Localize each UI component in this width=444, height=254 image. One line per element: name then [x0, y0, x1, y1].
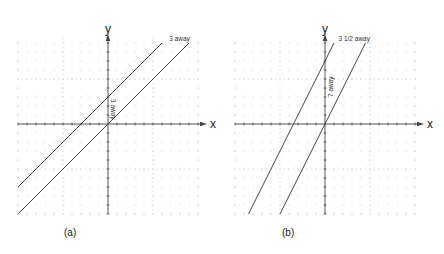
graph-line — [18, 43, 162, 187]
graph-line — [18, 43, 189, 214]
graph-line — [280, 43, 366, 214]
graph-line — [249, 43, 335, 214]
y-axis-label: y — [105, 22, 111, 36]
figure: xy3 away3 away(a) xy3 1/2 away7 away(b) — [0, 0, 444, 254]
y-axis-label: y — [322, 22, 328, 36]
x-axis-label: x — [210, 117, 216, 131]
distance-label-top: 3 away — [169, 35, 190, 43]
x-axis-arrow-icon — [200, 122, 207, 127]
panel-caption: (b) — [282, 227, 294, 238]
panel-caption: (a) — [64, 227, 76, 238]
panel-b: xy3 1/2 away7 away(b) — [234, 22, 433, 238]
distance-label-vertical: 7 away — [327, 76, 335, 97]
x-axis-arrow-icon — [417, 122, 424, 127]
x-axis-label: x — [427, 117, 433, 131]
distance-label-vertical: 3 away — [109, 99, 117, 120]
panel-a: xy3 away3 away(a) — [17, 22, 216, 238]
distance-label-top: 3 1/2 away — [339, 35, 371, 43]
